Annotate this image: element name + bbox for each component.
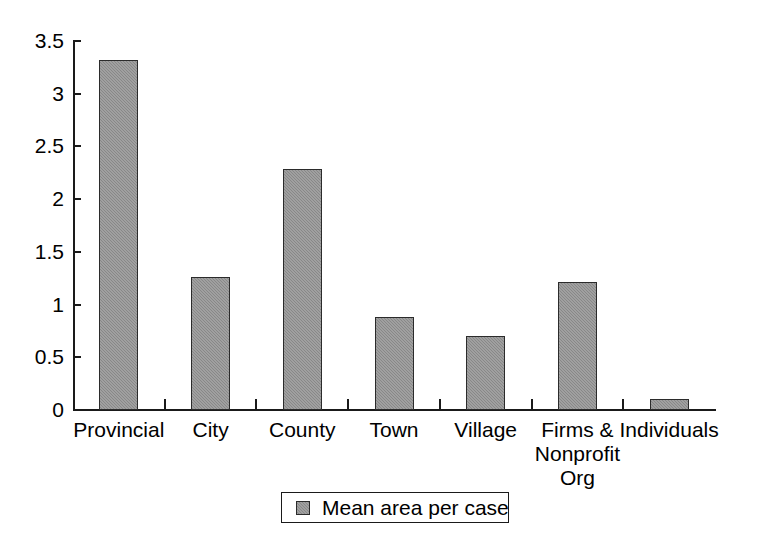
y-axis-tick-label: 2 <box>52 188 64 209</box>
y-axis-tick <box>73 356 81 358</box>
y-axis-tick-label: 1 <box>52 294 64 315</box>
y-axis-tick <box>73 40 81 42</box>
y-axis-tick <box>73 93 81 95</box>
y-axis-tick-label-wrap: 3 <box>0 83 64 104</box>
y-axis-tick <box>73 198 81 200</box>
y-axis-tick-label: 0.5 <box>35 346 64 367</box>
bar <box>466 336 505 410</box>
bar <box>99 60 138 410</box>
y-axis-tick <box>73 251 81 253</box>
x-axis-tick <box>622 399 624 409</box>
x-axis-tick <box>531 399 533 409</box>
y-axis-tick-label: 1.5 <box>35 241 64 262</box>
y-axis-tick-label-wrap: 1 <box>0 294 64 315</box>
y-axis-tick-label-wrap: 3.5 <box>0 30 64 51</box>
bar <box>283 169 322 410</box>
y-axis-tick-label-wrap: 2 <box>0 188 64 209</box>
x-axis-tick <box>164 399 166 409</box>
bar <box>375 317 414 410</box>
x-axis-tick <box>347 399 349 409</box>
y-axis-tick-label: 3.5 <box>35 30 64 51</box>
y-axis-tick-label: 0 <box>52 399 64 420</box>
y-axis-tick-label-wrap: 0 <box>0 399 64 420</box>
legend: Mean area per case <box>281 492 509 523</box>
bar-chart: 00.511.522.533.5 ProvincialCityCountyTow… <box>0 0 764 553</box>
y-axis-tick <box>73 145 81 147</box>
y-axis-tick <box>73 304 81 306</box>
y-axis-tick-label: 2.5 <box>35 135 64 156</box>
bar <box>191 277 230 410</box>
bar <box>650 399 689 410</box>
x-axis-tick <box>439 399 441 409</box>
bar <box>558 282 597 410</box>
y-axis-tick-label-wrap: 1.5 <box>0 241 64 262</box>
y-axis-tick-label-wrap: 0.5 <box>0 346 64 367</box>
y-axis-tick-label: 3 <box>52 83 64 104</box>
y-axis-tick <box>73 409 81 411</box>
x-axis-tick <box>255 399 257 409</box>
legend-swatch-icon <box>296 501 310 515</box>
y-axis-tick-label-wrap: 2.5 <box>0 135 64 156</box>
legend-label: Mean area per case <box>322 497 509 518</box>
x-axis-category-label: Individuals <box>615 418 723 442</box>
